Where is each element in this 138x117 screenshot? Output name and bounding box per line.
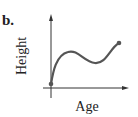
height-curve — [51, 43, 119, 84]
y-axis-arrow-icon — [49, 14, 53, 21]
x-axis-arrow-icon — [122, 86, 129, 90]
start-point-marker — [49, 82, 54, 87]
chart-plot-area — [0, 0, 138, 117]
end-point-marker — [117, 41, 122, 46]
